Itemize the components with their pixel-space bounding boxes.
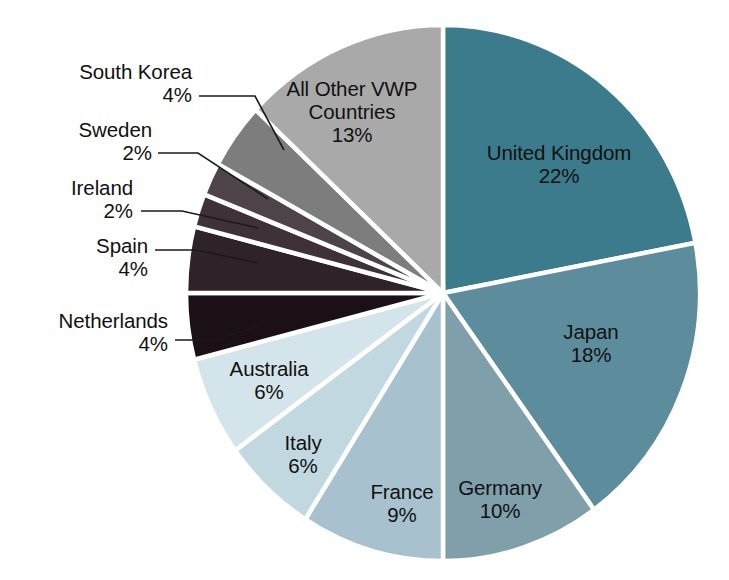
slice-label: Ireland2% xyxy=(71,176,133,222)
slice-label: South Korea4% xyxy=(79,60,192,106)
slice-label-value: 4% xyxy=(59,332,168,355)
slice-label-name: Sweden xyxy=(79,118,152,141)
slice-label-name: Ireland xyxy=(71,176,133,199)
slice-label: Japan18% xyxy=(563,320,618,366)
slice-label-name: Germany xyxy=(458,476,542,499)
slice-label: Netherlands4% xyxy=(59,309,168,355)
slice-label-value: 2% xyxy=(79,141,152,164)
slice-label: Germany10% xyxy=(458,476,542,522)
slice-label-value: 10% xyxy=(458,499,542,522)
slice-label: France9% xyxy=(370,480,433,526)
pie-slices-group xyxy=(186,25,700,561)
slice-label: Sweden2% xyxy=(79,118,152,164)
slice-label-name: Spain xyxy=(96,234,148,257)
slice-label-name: South Korea xyxy=(79,60,192,83)
slice-label-value: 18% xyxy=(563,343,618,366)
slice-label-name: Japan xyxy=(563,320,618,343)
slice-label-value: 4% xyxy=(79,83,192,106)
slice-label-value: 4% xyxy=(96,257,148,280)
pie-chart-figure: United Kingdom22%Japan18%Germany10%Franc… xyxy=(0,0,729,580)
slice-label-name: Australia xyxy=(230,357,309,380)
slice-label-name: Italy xyxy=(284,431,321,454)
slice-label-value: 13% xyxy=(287,124,418,147)
slice-label-value: 6% xyxy=(230,380,309,403)
slice-label-name: Netherlands xyxy=(59,309,168,332)
slice-label: Italy6% xyxy=(284,431,321,477)
slice-label-value: 22% xyxy=(487,164,631,187)
slice-label-name: All Other VWP Countries xyxy=(287,77,418,123)
slice-label: All Other VWP Countries13% xyxy=(287,77,418,146)
slice-label-value: 6% xyxy=(284,454,321,477)
slice-label-value: 9% xyxy=(370,503,433,526)
slice-label: Australia6% xyxy=(230,357,309,403)
slice-label-value: 2% xyxy=(71,199,133,222)
slice-label-name: United Kingdom xyxy=(487,141,631,164)
slice-label-name: France xyxy=(370,480,433,503)
slice-label: Spain4% xyxy=(96,234,148,280)
slice-label: United Kingdom22% xyxy=(487,141,631,187)
